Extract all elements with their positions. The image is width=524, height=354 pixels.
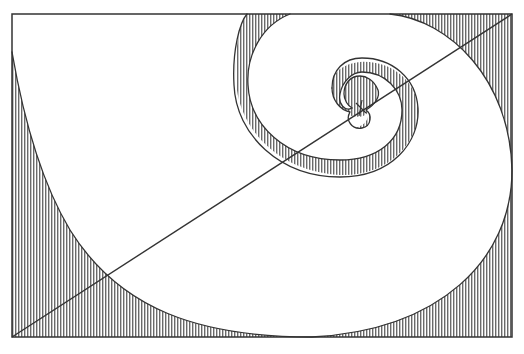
golden-spiral-diagram (0, 0, 524, 354)
diagram-container: Logarithmic spiral inscribed in golden r… (0, 0, 524, 354)
